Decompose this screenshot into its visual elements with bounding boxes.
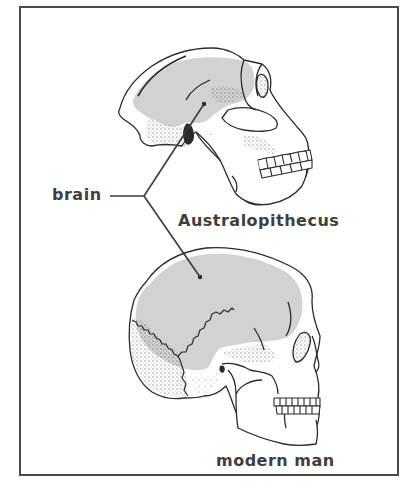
modern-man-skull	[129, 248, 320, 446]
skull-comparison-illustration	[0, 0, 414, 500]
australopithecus-label: Australopithecus	[178, 211, 339, 230]
brain-label: brain	[52, 185, 102, 204]
australopithecus-skull	[119, 48, 312, 205]
modern-man-teeth	[274, 398, 320, 414]
modern-man-label: modern man	[216, 451, 335, 470]
